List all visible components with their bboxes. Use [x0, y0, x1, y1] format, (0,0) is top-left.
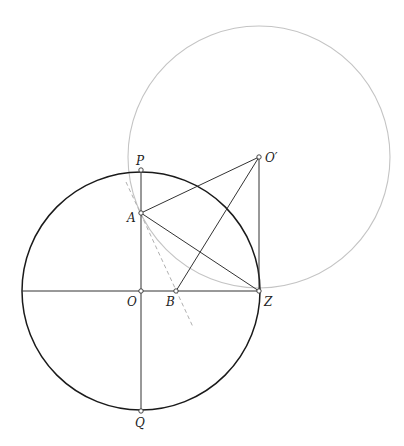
point-O — [139, 289, 143, 293]
point-Q — [139, 409, 143, 413]
label-Z: Z — [263, 295, 273, 309]
point-P — [139, 168, 143, 172]
point-B — [174, 289, 178, 293]
point-O_prime — [257, 155, 261, 159]
point-Z — [257, 289, 261, 293]
label-O-prime: O′ — [265, 151, 278, 165]
label-Q: Q — [135, 416, 145, 430]
point-A — [139, 211, 143, 215]
segments — [141, 157, 259, 411]
label-O: O — [127, 295, 137, 309]
label-P: P — [135, 154, 145, 168]
geometry-figure: P A O B Z Q O′ — [0, 0, 404, 446]
points — [139, 155, 261, 413]
label-B: B — [165, 295, 175, 309]
label-A: A — [126, 211, 136, 225]
